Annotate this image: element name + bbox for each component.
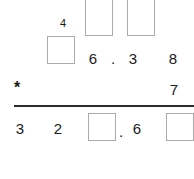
answer-rule-line [14, 105, 194, 107]
multiplicand-answer-box[interactable] [47, 36, 75, 64]
result-digit-6: 6 [131, 121, 143, 136]
result-digit-2: 2 [52, 121, 64, 136]
multiplicand-digit-8: 8 [167, 51, 179, 66]
result-digit-3: 3 [14, 121, 26, 136]
result-answer-box-1[interactable] [88, 113, 116, 141]
carry-answer-box-1[interactable] [85, 0, 113, 36]
long-multiplication-worksheet: 4 6 . 3 8 * 7 3 2 . 6 [0, 0, 194, 179]
result-decimal-point: . [117, 124, 125, 139]
carry-answer-box-2[interactable] [127, 0, 155, 36]
multiplicand-decimal-point: . [109, 51, 117, 66]
carry-digit-4: 4 [57, 18, 69, 29]
multiplicand-digit-6: 6 [87, 51, 99, 66]
multiplication-operator: * [14, 80, 20, 96]
result-answer-box-2[interactable] [166, 113, 194, 141]
multiplicand-digit-3: 3 [127, 51, 139, 66]
multiplier-digit-7: 7 [168, 82, 180, 97]
